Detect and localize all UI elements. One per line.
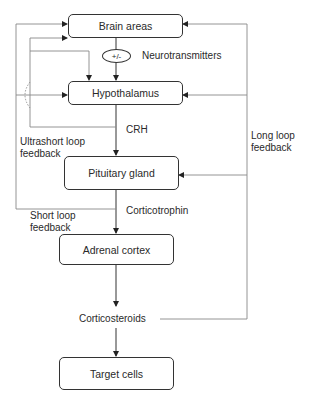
- hypothalamus-label: Hypothalamus: [92, 87, 159, 99]
- target-cells-label: Target cells: [90, 368, 143, 380]
- modulator-oval: +/-: [102, 49, 131, 63]
- brain-areas-node: Brain areas: [68, 14, 183, 38]
- long-loop-label-2: feedback: [251, 142, 292, 154]
- target-cells-node: Target cells: [59, 357, 174, 390]
- ultrashort-loop-label-2: feedback: [20, 148, 61, 160]
- corticosteroids-label: Corticosteroids: [79, 313, 146, 325]
- short-loop-label-1: Short loop: [30, 210, 76, 222]
- modulator-label: +/-: [112, 52, 122, 61]
- ultrashort-loop-label-1: Ultrashort loop: [20, 136, 85, 148]
- hypothalamus-node: Hypothalamus: [68, 81, 183, 105]
- short-loop-label-2: feedback: [30, 222, 71, 234]
- pituitary-gland-label: Pituitary gland: [88, 167, 155, 179]
- corticotrophin-label: Corticotrophin: [126, 205, 188, 217]
- brain-areas-label: Brain areas: [99, 20, 153, 32]
- neurotransmitters-label: Neurotransmitters: [142, 50, 221, 62]
- crh-label: CRH: [126, 124, 148, 136]
- long-loop-label-1: Long loop: [251, 130, 295, 142]
- adrenal-cortex-node: Adrenal cortex: [59, 234, 174, 265]
- adrenal-cortex-label: Adrenal cortex: [83, 244, 151, 256]
- pituitary-gland-node: Pituitary gland: [64, 156, 179, 190]
